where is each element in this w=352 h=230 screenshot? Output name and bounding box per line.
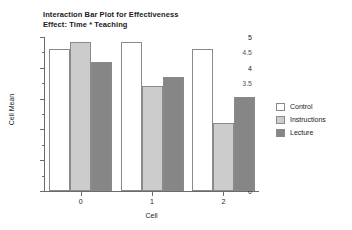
x-axis-label: Cell	[44, 212, 259, 219]
legend-label: Control	[290, 103, 313, 110]
bar-instructions-cell-1	[142, 86, 163, 191]
bar-lecture-cell-2	[234, 97, 255, 191]
y-axis-tick	[42, 145, 45, 146]
legend-swatch-lecture	[276, 129, 285, 137]
bar-control-cell-1	[121, 42, 142, 191]
chart-subtitle: Effect: Time * Teaching	[43, 20, 179, 30]
legend-label: Lecture	[290, 129, 313, 136]
y-axis-tick	[40, 68, 45, 69]
legend-item-lecture: Lecture	[276, 127, 326, 138]
y-axis-tick-label: 4.5	[242, 49, 252, 56]
x-axis-tick	[223, 191, 224, 196]
bar-control-cell-0	[49, 49, 70, 191]
bar-instructions-cell-0	[70, 42, 91, 191]
legend-item-instructions: Instructions	[276, 114, 326, 125]
y-axis-tick	[40, 191, 45, 192]
y-axis-tick	[40, 129, 45, 130]
y-axis-tick-label: 3.5	[242, 80, 252, 87]
plot-area: 0.511.522.533.544.55012	[44, 37, 259, 192]
x-axis-tick	[152, 191, 153, 196]
x-axis-tick-label: 1	[150, 198, 154, 205]
x-axis-tick	[81, 191, 82, 196]
legend-label: Instructions	[290, 116, 326, 123]
interaction-bar-plot-figure: Interaction Bar Plot for Effectiveness E…	[0, 0, 352, 230]
bar-control-cell-2	[192, 49, 213, 191]
y-axis-tick	[42, 114, 45, 115]
legend-swatch-instructions	[276, 116, 285, 124]
chart-title-block: Interaction Bar Plot for Effectiveness E…	[43, 10, 179, 29]
y-axis-tick-label: 5	[248, 34, 252, 41]
legend-swatch-control	[276, 103, 285, 111]
chart-title: Interaction Bar Plot for Effectiveness	[43, 10, 179, 20]
y-axis-tick	[40, 37, 45, 38]
bar-lecture-cell-0	[91, 62, 112, 191]
y-axis-tick	[42, 52, 45, 53]
y-axis-tick-label: 4	[248, 64, 252, 71]
y-axis-tick	[42, 176, 45, 177]
bar-instructions-cell-2	[213, 123, 234, 191]
y-axis-tick	[40, 99, 45, 100]
bar-lecture-cell-1	[163, 77, 184, 191]
y-axis-tick	[40, 160, 45, 161]
y-axis-label: Cell Mean	[8, 80, 15, 140]
x-axis-tick-label: 0	[79, 198, 83, 205]
x-axis-tick-label: 2	[221, 198, 225, 205]
y-axis-tick	[42, 83, 45, 84]
legend-item-control: Control	[276, 101, 326, 112]
chart-legend: ControlInstructionsLecture	[276, 101, 326, 140]
